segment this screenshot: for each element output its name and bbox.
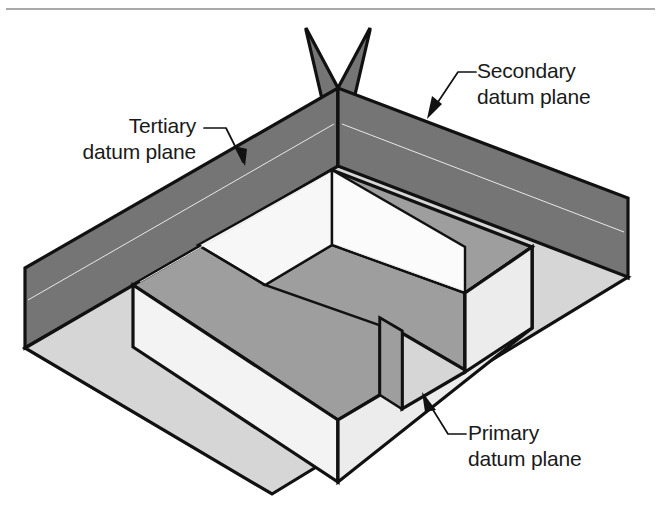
primary-label-line2: datum plane [468,447,581,470]
primary-label-line1: Primary [468,421,540,444]
datum-reference-frame-diagram: Tertiary datum plane Secondary datum pla… [0,0,661,525]
figure-root: Tertiary datum plane Secondary datum pla… [0,0,661,525]
tertiary-label-line2: datum plane [83,140,196,163]
label-tertiary-datum-plane: Tertiary datum plane [83,114,197,163]
secondary-label-line2: datum plane [477,85,590,108]
tertiary-label-line1: Tertiary [129,114,197,137]
block-notch-interior [380,318,402,409]
label-secondary-datum-plane: Secondary datum plane [477,59,590,108]
secondary-label-line1: Secondary [477,59,576,82]
label-primary-datum-plane: Primary datum plane [468,421,581,470]
